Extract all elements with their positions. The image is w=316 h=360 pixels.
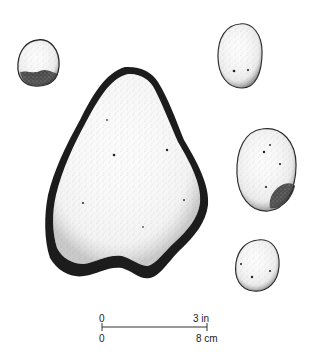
artifact-medium-right [237,129,296,211]
artifact-large-center [45,67,208,278]
scale-top-end-label: 3 in [193,314,209,324]
scale-bar [102,323,207,331]
artifacts-drawing [0,0,316,360]
artifact-small-top-left [18,40,59,86]
artifact-illustration: 0 3 in 0 8 cm [0,0,316,360]
artifact-small-bottom-right [236,240,279,291]
scale-top-start-label: 0 [99,314,105,324]
scale-bottom-start-label: 0 [99,334,105,344]
artifact-small-top-right [218,24,262,88]
scale-bottom-end-label: 8 cm [196,334,218,344]
